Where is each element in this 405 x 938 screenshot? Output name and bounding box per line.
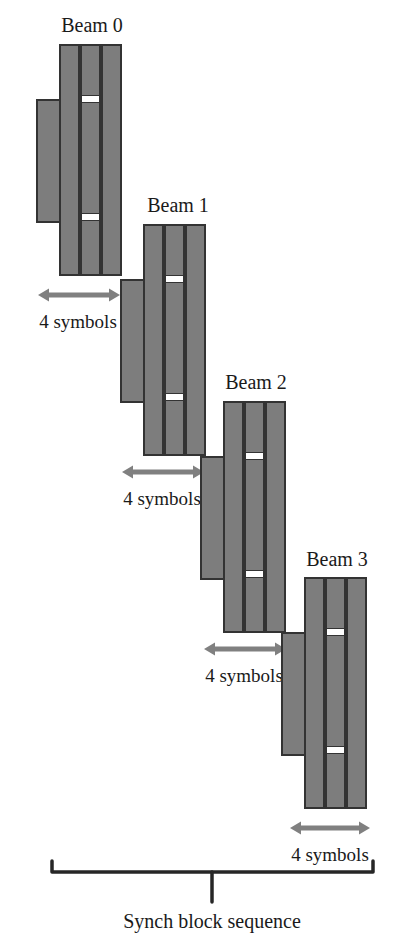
- beam-0-label: Beam 0: [61, 14, 123, 36]
- beam-2-side-bar: [201, 457, 224, 579]
- beam-2-bar-0: [224, 402, 243, 632]
- beam-0-bar-0: [60, 45, 79, 275]
- beam-2-bar-1: [245, 402, 264, 632]
- beam-3-side-bar: [282, 633, 305, 755]
- beam-2-gap-0: [246, 452, 263, 459]
- beam-3-bar-0: [305, 578, 324, 808]
- beam-3-gap-1: [327, 746, 344, 753]
- beam-2-label: Beam 2: [225, 371, 287, 393]
- beam-1-side-bar: [121, 280, 144, 402]
- beam-2-bar-2: [266, 402, 285, 632]
- beam-3-label: Beam 3: [306, 548, 368, 570]
- beam-0-bar-1: [81, 45, 100, 275]
- beam-1-gap-1: [166, 393, 183, 400]
- beam-0-gap-0: [82, 95, 99, 102]
- beam-3-gap-0: [327, 628, 344, 635]
- beam-2-arrow-label: 4 symbols: [205, 665, 283, 686]
- beam-1-gap-0: [166, 275, 183, 282]
- beam-1-arrow-label: 4 symbols: [123, 488, 201, 509]
- beam-2-gap-1: [246, 570, 263, 577]
- beam-0-side-bar: [37, 100, 60, 222]
- beam-0-arrow-label: 4 symbols: [39, 311, 117, 332]
- beam-0-gap-1: [82, 213, 99, 220]
- beam-1-label: Beam 1: [147, 194, 209, 216]
- synch-block-sequence-diagram: Beam 04 symbolsBeam 14 symbolsBeam 24 sy…: [0, 0, 405, 938]
- beam-3-bar-1: [326, 578, 345, 808]
- beam-0-bar-2: [102, 45, 121, 275]
- beam-3-arrow-label: 4 symbols: [291, 844, 369, 865]
- beam-1-bar-0: [144, 225, 163, 455]
- sequence-caption: Synch block sequence: [123, 910, 301, 933]
- beam-1-bar-2: [186, 225, 205, 455]
- beam-3-bar-2: [347, 578, 366, 808]
- beam-1-bar-1: [165, 225, 184, 455]
